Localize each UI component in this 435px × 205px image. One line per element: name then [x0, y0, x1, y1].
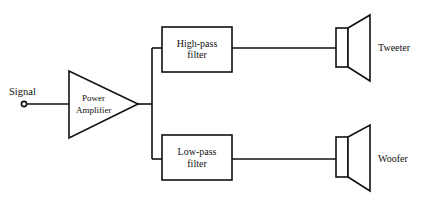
low-pass-label-line1: Low-pass [178, 146, 217, 157]
tweeter-cone-icon [348, 15, 370, 81]
low-pass-label-line2: filter [187, 158, 207, 169]
amplifier-output-bus [138, 48, 162, 159]
power-amplifier-block: Power Amplifier [69, 71, 138, 138]
high-pass-filter-block: High-pass filter [162, 27, 232, 72]
woofer-cone-icon [348, 125, 370, 191]
high-pass-label-line1: High-pass [177, 38, 218, 49]
amplifier-label-line2: Amplifier [76, 105, 112, 115]
amplifier-label-line1: Power [82, 93, 105, 103]
woofer-magnet [336, 137, 348, 177]
low-pass-filter-block: Low-pass filter [162, 135, 232, 180]
crossover-block-diagram: Signal Power Amplifier High-pass filter … [0, 0, 435, 205]
tweeter-label: Tweeter [378, 42, 411, 53]
high-pass-label-line2: filter [187, 49, 207, 60]
tweeter-speaker: Tweeter [336, 15, 411, 81]
input-terminal-icon [21, 101, 26, 106]
signal-input: Signal [9, 86, 69, 107]
tweeter-magnet [336, 28, 348, 67]
woofer-speaker: Woofer [336, 125, 408, 191]
woofer-label: Woofer [378, 153, 408, 164]
signal-label: Signal [9, 86, 36, 97]
